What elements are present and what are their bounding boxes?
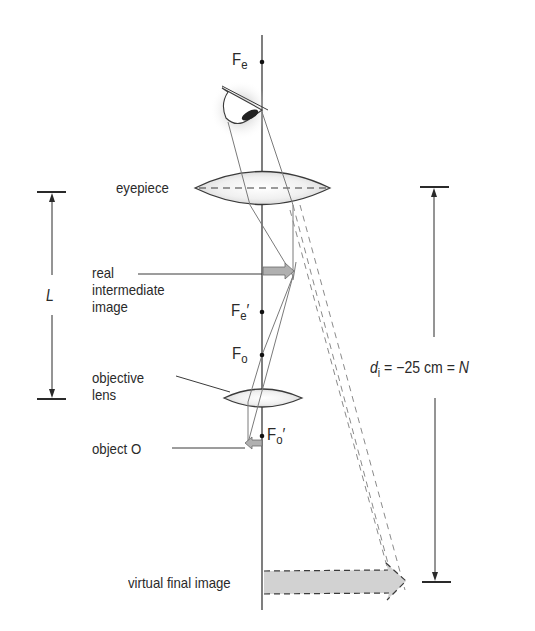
microscope-diagram: Fe Fe′ Fo Fo′ eyepiece real intermediate… [0,0,535,631]
label-fe-prime: Fe′ [231,301,249,323]
eye-icon [210,80,270,140]
label-real-image-line2: intermediate [92,281,165,298]
focal-point-fe [260,60,265,65]
label-real-image-line3: image [92,298,128,315]
label-objective-line2: lens [92,386,116,403]
label-real-image-line1: real [92,264,114,281]
eyepiece-lens [195,172,330,205]
label-fo: Fo [232,344,248,366]
label-eyepiece: eyepiece [116,179,169,196]
intermediate-image-arrow [263,263,294,279]
objective-lens [224,389,302,407]
image-distance-dimension [420,187,451,582]
focal-point-fo-prime [260,434,265,439]
virtual-final-image-arrow [264,563,406,600]
label-tube-length: L [46,287,54,304]
label-fe: Fe [232,50,248,72]
label-virtual-final-image: virtual final image [128,574,231,591]
leader-objective [176,376,230,392]
label-objective-line1: objective [92,369,144,386]
focal-point-fe-prime [260,310,265,315]
focal-point-fo [260,353,265,358]
virtual-rays [290,205,405,590]
diagram-canvas [0,0,535,631]
label-fo-prime: Fo′ [267,425,285,447]
label-image-distance: di = −25 cm = N [370,359,469,382]
label-object: object O [92,440,141,457]
